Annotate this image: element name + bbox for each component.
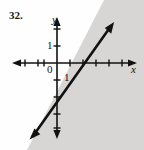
x-tick-label-one: 1 xyxy=(64,72,70,83)
graph-figure: 32. y x 1 0 1 xyxy=(0,0,144,150)
y-axis-label: y xyxy=(52,14,57,25)
origin-label: 0 xyxy=(47,64,53,75)
shaded-region xyxy=(27,0,144,150)
y-tick-label-one: 1 xyxy=(47,40,53,51)
problem-number: 32. xyxy=(9,10,23,21)
coordinate-plane-svg xyxy=(0,0,144,150)
x-axis-label: x xyxy=(131,64,136,75)
